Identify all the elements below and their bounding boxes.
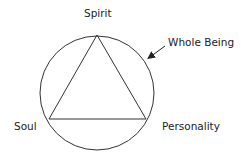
whole-being-circle — [40, 36, 154, 150]
whole-being-arrow-icon — [148, 46, 165, 59]
label-soul: Soul — [14, 121, 37, 132]
label-whole-being: Whole Being — [168, 37, 234, 48]
whole-being-diagram: Spirit Whole Being Soul Personality — [0, 0, 241, 160]
diagram-graphics — [0, 0, 241, 160]
label-personality: Personality — [162, 121, 220, 132]
label-spirit: Spirit — [84, 8, 112, 19]
